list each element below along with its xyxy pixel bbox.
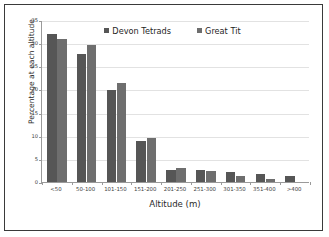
y-axis-tick-label: 20 — [31, 88, 38, 93]
y-axis-tick-label: 0 — [35, 180, 38, 185]
y-axis-tick-label: 25 — [31, 65, 38, 70]
legend-entry-great-tit: Great Tit — [197, 27, 241, 35]
legend-label: Great Tit — [205, 27, 241, 35]
legend-label: Devon Tetrads — [112, 27, 171, 35]
y-axis-tick-label: 35 — [31, 18, 38, 23]
y-axis-tick-labels: 05101520253035 — [27, 21, 38, 183]
x-axis-tick-label: 251-300 — [194, 187, 217, 192]
y-axis-tick-label: 30 — [31, 42, 38, 47]
x-axis-tick-label: >400 — [287, 187, 302, 192]
y-axis-tick-label: 5 — [35, 157, 38, 162]
x-axis-tick-label: 101-150 — [104, 187, 127, 192]
x-axis-tick-label: 351-400 — [253, 187, 276, 192]
legend-swatch-icon — [197, 28, 202, 33]
legend-entry-devon-tetrads: Devon Tetrads — [104, 27, 171, 35]
chart-legend: Devon Tetrads Great Tit — [65, 25, 280, 37]
x-axis-tick-label: 301-350 — [223, 187, 246, 192]
y-axis-tick-label: 15 — [31, 111, 38, 116]
x-axis-tick-label: 201-250 — [164, 187, 187, 192]
x-axis-tick-label: 151-200 — [134, 187, 157, 192]
x-axis-tick-mark — [310, 182, 311, 185]
chart-figure: Percentage at each altitude 051015202530… — [4, 4, 323, 231]
x-axis-title: Altitude (m) — [41, 199, 309, 209]
y-axis-tick-label: 10 — [31, 134, 38, 139]
x-axis-tick-label: <50 — [50, 187, 61, 192]
legend-swatch-icon — [104, 28, 109, 33]
x-axis-tick-label: 50-100 — [76, 187, 95, 192]
